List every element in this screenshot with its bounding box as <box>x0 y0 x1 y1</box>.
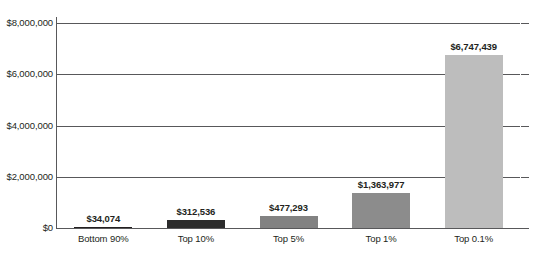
bar[interactable] <box>445 55 503 228</box>
y-axis-tick-label: $0 <box>0 223 53 233</box>
y-axis-tick-label: $6,000,000 <box>0 69 53 79</box>
x-axis-line <box>57 228 525 229</box>
bars-container <box>57 23 520 228</box>
bar[interactable] <box>260 216 318 228</box>
bar-value-label: $477,293 <box>229 202 349 213</box>
bar-value-label: $1,363,977 <box>321 179 441 190</box>
y-axis-tick-label: $2,000,000 <box>0 172 53 182</box>
x-axis-category-label: Top 0.1% <box>414 233 534 245</box>
y-axis-tick-mark <box>521 177 529 178</box>
y-axis-tick-label: $4,000,000 <box>0 121 53 131</box>
y-axis-tick-label: $8,000,000 <box>0 18 53 28</box>
bar-value-label: $6,747,439 <box>414 41 534 52</box>
y-axis-tick-mark <box>521 74 529 75</box>
bar-chart: $0$2,000,000$4,000,000$6,000,000$8,000,0… <box>0 0 536 259</box>
bar[interactable] <box>167 220 225 228</box>
bar[interactable] <box>74 227 132 228</box>
y-axis-tick-mark <box>521 23 529 24</box>
y-axis-tick-mark <box>521 126 529 127</box>
bar[interactable] <box>352 193 410 228</box>
y-axis-tick-mark <box>521 228 529 229</box>
